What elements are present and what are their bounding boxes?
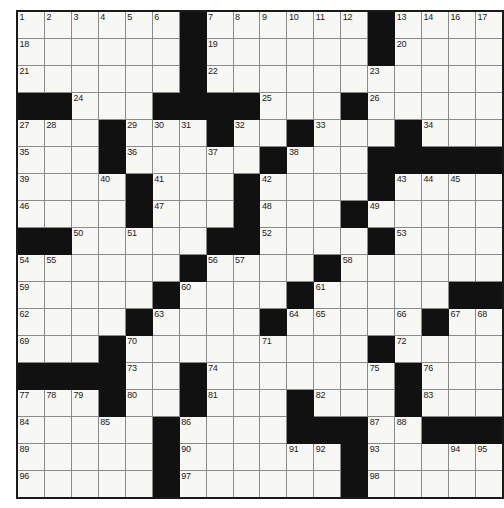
crossword-cell[interactable] (71, 471, 98, 499)
crossword-cell[interactable]: 30 (152, 120, 179, 147)
crossword-cell[interactable] (449, 363, 476, 390)
crossword-cell[interactable] (233, 363, 260, 390)
crossword-cell[interactable] (287, 39, 314, 66)
crossword-cell[interactable] (98, 255, 125, 282)
crossword-cell[interactable] (475, 228, 503, 255)
crossword-cell[interactable]: 34 (422, 120, 449, 147)
crossword-cell[interactable] (368, 309, 395, 336)
crossword-cell[interactable]: 52 (260, 228, 287, 255)
crossword-cell[interactable]: 87 (368, 417, 395, 444)
crossword-cell[interactable] (449, 39, 476, 66)
crossword-cell[interactable] (233, 39, 260, 66)
crossword-cell[interactable] (206, 174, 233, 201)
crossword-cell[interactable] (152, 147, 179, 174)
crossword-cell[interactable] (475, 255, 503, 282)
crossword-cell[interactable] (449, 255, 476, 282)
crossword-cell[interactable] (152, 228, 179, 255)
crossword-cell[interactable] (341, 39, 368, 66)
crossword-cell[interactable] (233, 444, 260, 471)
crossword-cell[interactable]: 60 (179, 282, 206, 309)
crossword-cell[interactable]: 24 (71, 93, 98, 120)
crossword-cell[interactable] (71, 120, 98, 147)
crossword-cell[interactable]: 57 (233, 255, 260, 282)
crossword-cell[interactable] (98, 93, 125, 120)
crossword-cell[interactable] (449, 390, 476, 417)
crossword-cell[interactable] (260, 39, 287, 66)
crossword-cell[interactable]: 8 (233, 11, 260, 39)
crossword-cell[interactable] (422, 93, 449, 120)
crossword-cell[interactable] (395, 255, 422, 282)
crossword-cell[interactable]: 55 (44, 255, 71, 282)
crossword-cell[interactable] (422, 39, 449, 66)
crossword-cell[interactable]: 16 (449, 11, 476, 39)
crossword-cell[interactable] (341, 282, 368, 309)
crossword-cell[interactable]: 14 (422, 11, 449, 39)
crossword-cell[interactable]: 51 (125, 228, 152, 255)
crossword-cell[interactable] (125, 93, 152, 120)
crossword-cell[interactable] (71, 444, 98, 471)
crossword-cell[interactable]: 38 (287, 147, 314, 174)
crossword-cell[interactable] (44, 282, 71, 309)
crossword-cell[interactable] (314, 363, 341, 390)
crossword-cell[interactable] (71, 282, 98, 309)
crossword-cell[interactable] (287, 363, 314, 390)
crossword-cell[interactable] (422, 471, 449, 499)
crossword-cell[interactable] (475, 39, 503, 66)
crossword-cell[interactable] (98, 228, 125, 255)
crossword-cell[interactable] (449, 93, 476, 120)
crossword-cell[interactable] (233, 336, 260, 363)
crossword-cell[interactable] (179, 174, 206, 201)
crossword-cell[interactable] (287, 93, 314, 120)
crossword-cell[interactable] (44, 39, 71, 66)
crossword-cell[interactable]: 97 (179, 471, 206, 499)
crossword-cell[interactable] (341, 228, 368, 255)
crossword-cell[interactable] (341, 66, 368, 93)
crossword-cell[interactable] (314, 93, 341, 120)
crossword-cell[interactable]: 50 (71, 228, 98, 255)
crossword-cell[interactable] (341, 309, 368, 336)
crossword-cell[interactable] (475, 66, 503, 93)
crossword-cell[interactable]: 22 (206, 66, 233, 93)
crossword-cell[interactable] (395, 201, 422, 228)
crossword-cell[interactable] (125, 417, 152, 444)
crossword-cell[interactable]: 20 (395, 39, 422, 66)
crossword-cell[interactable]: 46 (17, 201, 44, 228)
crossword-cell[interactable] (125, 282, 152, 309)
crossword-cell[interactable] (233, 390, 260, 417)
crossword-cell[interactable]: 81 (206, 390, 233, 417)
crossword-cell[interactable]: 83 (422, 390, 449, 417)
crossword-cell[interactable] (179, 147, 206, 174)
crossword-cell[interactable] (71, 201, 98, 228)
crossword-cell[interactable]: 35 (17, 147, 44, 174)
crossword-cell[interactable] (422, 255, 449, 282)
crossword-cell[interactable] (314, 336, 341, 363)
crossword-cell[interactable] (125, 444, 152, 471)
crossword-cell[interactable]: 80 (125, 390, 152, 417)
crossword-cell[interactable] (260, 444, 287, 471)
crossword-cell[interactable] (125, 471, 152, 499)
crossword-cell[interactable]: 43 (395, 174, 422, 201)
crossword-cell[interactable]: 19 (206, 39, 233, 66)
crossword-cell[interactable]: 69 (17, 336, 44, 363)
crossword-cell[interactable]: 75 (368, 363, 395, 390)
crossword-cell[interactable]: 28 (44, 120, 71, 147)
crossword-cell[interactable]: 65 (314, 309, 341, 336)
crossword-cell[interactable]: 23 (368, 66, 395, 93)
crossword-cell[interactable]: 39 (17, 174, 44, 201)
crossword-cell[interactable]: 66 (395, 309, 422, 336)
crossword-cell[interactable]: 45 (449, 174, 476, 201)
crossword-cell[interactable]: 37 (206, 147, 233, 174)
crossword-cell[interactable] (422, 336, 449, 363)
crossword-cell[interactable] (341, 336, 368, 363)
crossword-cell[interactable]: 76 (422, 363, 449, 390)
crossword-cell[interactable] (422, 201, 449, 228)
crossword-cell[interactable]: 90 (179, 444, 206, 471)
crossword-cell[interactable] (475, 174, 503, 201)
crossword-cell[interactable] (341, 390, 368, 417)
crossword-cell[interactable]: 96 (17, 471, 44, 499)
crossword-cell[interactable] (44, 336, 71, 363)
crossword-cell[interactable]: 29 (125, 120, 152, 147)
crossword-cell[interactable] (395, 444, 422, 471)
crossword-cell[interactable] (152, 255, 179, 282)
crossword-cell[interactable]: 26 (368, 93, 395, 120)
